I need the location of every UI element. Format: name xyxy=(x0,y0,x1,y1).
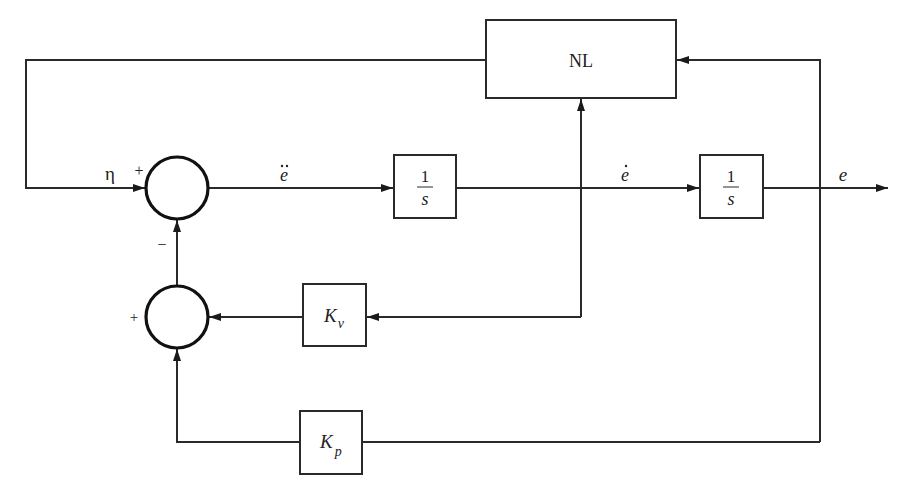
wires xyxy=(26,60,888,442)
nl-block: NL xyxy=(486,20,676,98)
svg-text:e: e xyxy=(280,165,288,185)
sum2-plus-sign: + xyxy=(130,309,138,325)
wire-e-to-nl xyxy=(677,60,820,442)
block-diagram: NL 1 s 1 s Kv Kp η + − + e e xyxy=(0,0,906,490)
integrator-2-numerator: 1 xyxy=(727,167,736,186)
dot-mark xyxy=(286,165,288,167)
kv-gain-block: Kv xyxy=(303,284,366,346)
dot-mark xyxy=(281,165,283,167)
integrator-1-denominator: s xyxy=(421,189,428,209)
wire-kp-to-sum2 xyxy=(177,349,300,442)
e-dot-label: e xyxy=(621,165,629,185)
integrator-block-2: 1 s xyxy=(700,155,763,218)
summing-junction-1 xyxy=(146,157,208,219)
integrator-block-1: 1 s xyxy=(394,155,456,218)
sum1-minus-sign: − xyxy=(157,236,166,253)
integrator-2-denominator: s xyxy=(727,189,734,209)
e-output-label: e xyxy=(839,164,847,185)
svg-text:e: e xyxy=(621,165,629,185)
eta-label: η xyxy=(105,163,115,184)
sum1-plus-sign: + xyxy=(134,162,143,179)
summing-junction-2 xyxy=(146,286,208,348)
kp-gain-block: Kp xyxy=(300,411,362,474)
e-ddot-label: e xyxy=(280,165,288,185)
nl-label: NL xyxy=(569,51,593,71)
dot-mark xyxy=(625,165,627,167)
integrator-1-numerator: 1 xyxy=(421,167,430,186)
